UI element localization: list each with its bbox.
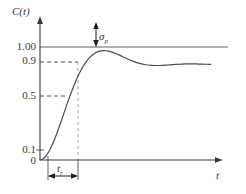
overshoot-arrow-up-head: [93, 22, 99, 29]
x-axis-title: t: [216, 170, 219, 181]
y-tick-label-0: 0: [0, 155, 36, 166]
y-axis-title-text: C(t): [12, 5, 30, 17]
y-tick-label-09: 0.9: [0, 55, 36, 66]
y-tick-label-100: 1.00: [0, 41, 36, 52]
y-tick-label-05: 0.5: [0, 90, 36, 101]
x-axis-arrowhead: [215, 157, 222, 163]
overshoot-arrow-down-head: [93, 40, 99, 47]
y-axis-arrowhead: [37, 16, 43, 24]
step-response-chart: C(t) t 1.00 0.9 0.5 0.1 0 σp tr: [0, 0, 246, 194]
overshoot-subscript: p: [104, 37, 108, 45]
rise-time-label: tr: [57, 163, 63, 177]
rise-time-arrow-left-head: [48, 173, 55, 179]
step-response-curve: [40, 51, 211, 160]
y-axis-title: C(t): [12, 6, 30, 17]
overshoot-label: σp: [99, 31, 108, 45]
rise-time-subscript: r: [60, 169, 63, 177]
rise-time-arrow-right-head: [71, 173, 78, 179]
chart-canvas: [0, 0, 246, 194]
